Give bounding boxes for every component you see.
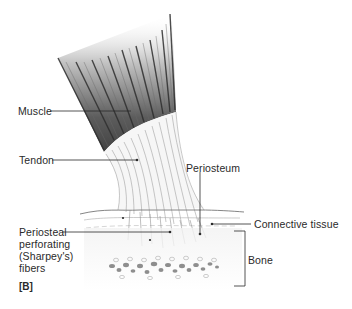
label-sharpey-line3: (Sharpey's) — [19, 250, 73, 262]
label-sharpey-line1: Periosteal — [19, 226, 67, 238]
label-tendon: Tendon — [19, 154, 54, 166]
label-periosteum: Periosteum — [186, 162, 240, 174]
label-connective-tissue: Connective tissue — [254, 218, 339, 230]
panel-tag: [B] — [19, 281, 33, 292]
label-bone: Bone — [248, 254, 273, 266]
periosteum-layer — [80, 210, 244, 228]
label-muscle: Muscle — [18, 105, 52, 117]
label-sharpey-line2: perforating — [19, 238, 70, 250]
muscle-tendon-bone-diagram: Muscle Tendon Periosteum Connective tiss… — [0, 0, 352, 309]
bone-body — [84, 228, 242, 290]
label-sharpey-line4: fibers — [19, 262, 45, 274]
